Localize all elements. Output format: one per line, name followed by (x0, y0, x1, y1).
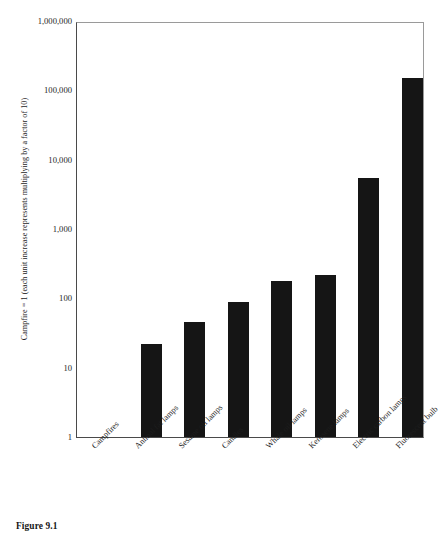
bar (315, 275, 336, 437)
y-tick-label: 10 (0, 363, 72, 373)
y-tick-label: 10,000 (0, 155, 72, 165)
y-tick-label: 1,000,000 (0, 16, 72, 26)
figure-9-1: Campfire = 1 (each unit increase represe… (0, 0, 444, 538)
y-tick-label: 100 (0, 293, 72, 303)
bar (358, 178, 379, 437)
figure-caption: Figure 9.1 (16, 521, 57, 531)
bar (271, 281, 292, 437)
y-tick-label: 1,000 (0, 224, 72, 234)
bar (228, 302, 249, 437)
plot-area (76, 22, 424, 438)
y-tick-label: 1 (0, 432, 72, 442)
bar (402, 78, 423, 437)
y-tick-label: 100,000 (0, 85, 72, 95)
